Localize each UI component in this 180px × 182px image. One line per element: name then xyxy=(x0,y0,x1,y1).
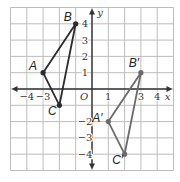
vertex-point xyxy=(106,119,111,124)
x-tick-label: 1 xyxy=(105,91,111,102)
vertex-point xyxy=(41,70,46,75)
y-axis-down-arrow-icon xyxy=(89,164,95,170)
vertex-label: C′ xyxy=(112,153,124,167)
vertex-point xyxy=(138,70,143,75)
y-tick-label: 1 xyxy=(82,67,88,78)
x-tick-label: −4 xyxy=(19,91,34,102)
origin-label: O xyxy=(80,91,88,102)
vertex-label: B xyxy=(64,10,72,24)
x-tick-label: 3 xyxy=(138,91,144,102)
y-tick-label: 3 xyxy=(82,35,88,46)
x-tick-label: 4 xyxy=(154,91,160,102)
vertex-point xyxy=(57,103,62,108)
vertex-point xyxy=(73,21,78,26)
y-axis-label: y xyxy=(96,7,103,18)
vertex-label: B′ xyxy=(129,56,140,70)
x-tick-label: −3 xyxy=(36,91,51,102)
x-axis-label: x xyxy=(165,91,171,102)
y-tick-label: −4 xyxy=(78,149,93,160)
vertex-label: A xyxy=(28,59,37,73)
coordinate-plane-diagram: −4−31344321−2−3−4Oxy ABCA′B′C′ xyxy=(0,0,180,182)
y-tick-label: 2 xyxy=(82,51,88,62)
vertex-label: A′ xyxy=(91,111,103,125)
axes xyxy=(12,9,173,170)
y-tick-label: −2 xyxy=(78,116,93,127)
vertex-label: C xyxy=(48,104,57,118)
y-tick-label: 4 xyxy=(82,18,88,29)
tick-labels: −4−31344321−2−3−4Oxy xyxy=(19,7,170,160)
y-axis-up-arrow-icon xyxy=(89,9,95,15)
y-tick-label: −3 xyxy=(78,132,93,143)
x-axis-left-arrow-icon xyxy=(12,86,18,92)
coordinate-plane: −4−31344321−2−3−4Oxy ABCA′B′C′ xyxy=(0,0,180,182)
